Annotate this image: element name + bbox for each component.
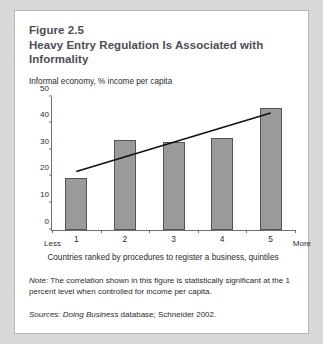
figure-note: Note: The correlation shown in this figu… bbox=[29, 275, 296, 298]
x-axis-tick-label: 5 bbox=[268, 234, 273, 244]
note-text: The correlation shown in this figure is … bbox=[29, 276, 290, 297]
x-axis-tick-mark bbox=[101, 230, 102, 233]
plot-area: 01020304050 12345 Less More bbox=[51, 97, 295, 231]
trendline-segment bbox=[76, 112, 270, 171]
x-axis-tick-mark bbox=[149, 230, 150, 233]
x-axis-tick-label: 3 bbox=[171, 234, 176, 244]
note-label: Note: bbox=[29, 276, 48, 285]
x-axis-tick-label: 1 bbox=[74, 234, 79, 244]
trendline bbox=[52, 97, 295, 230]
figure-card: Figure 2.5 Heavy Entry Regulation Is Ass… bbox=[14, 10, 309, 334]
figure-title: Heavy Entry Regulation Is Associated wit… bbox=[29, 38, 296, 67]
page-title: Figure 2.5 Heavy Entry Regulation Is Ass… bbox=[29, 23, 296, 67]
x-axis-tick-label: 4 bbox=[220, 234, 225, 244]
y-axis-caption: Informal economy, % income per capita bbox=[29, 76, 296, 87]
figure-sources: Sources: Doing Business database; Schnei… bbox=[29, 309, 296, 321]
x-axis-tick-mark bbox=[198, 230, 199, 233]
x-axis-tick-mark bbox=[52, 230, 53, 233]
sources-rest: database; Schneider 2002. bbox=[118, 310, 216, 319]
x-axis-endpoint-more: More bbox=[293, 239, 311, 248]
y-axis-tick-label: 20 bbox=[40, 163, 49, 172]
y-axis-tick-label: 10 bbox=[40, 189, 49, 198]
figure-number: Figure 2.5 bbox=[29, 23, 296, 38]
sources-italic-title: Doing Business bbox=[61, 310, 119, 319]
sources-label: Sources: bbox=[29, 310, 61, 319]
x-axis-tick-mark bbox=[246, 230, 247, 233]
chart-plot: 01020304050 12345 Less More Countries ra… bbox=[29, 91, 297, 259]
x-axis-caption: Countries ranked by procedures to regist… bbox=[29, 253, 297, 262]
y-axis-tick-label: 50 bbox=[40, 83, 49, 92]
x-axis-tick-label: 2 bbox=[123, 234, 128, 244]
x-axis-endpoint-less: Less bbox=[44, 239, 61, 248]
y-axis-tick-label: 40 bbox=[40, 110, 49, 119]
y-axis-tick-label: 30 bbox=[40, 136, 49, 145]
y-axis-tick-label: 0 bbox=[45, 216, 49, 225]
x-axis-tick-mark bbox=[295, 230, 296, 233]
